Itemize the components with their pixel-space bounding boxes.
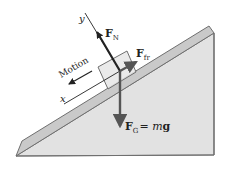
gravity-force-label: FG= mg [125,120,171,135]
gravity-g: g [163,120,171,133]
gravity-equals: = [139,120,152,133]
normal-force-subscript: N [113,34,119,42]
gravity-force-subscript: G [133,127,139,135]
incline-diagram: y x Motion FN Ffr FG= mg [0,0,226,169]
gravity-mass: m [152,120,162,133]
x-axis-label: x [60,93,66,104]
motion-label: Motion [57,55,90,80]
gravity-force-symbol: F [125,120,133,133]
friction-force-symbol: F [136,47,144,60]
normal-force-label: FN [105,27,119,42]
diagram-canvas: y x Motion FN Ffr FG= mg [0,0,226,169]
y-axis-label: y [78,13,85,24]
friction-force-subscript: fr [144,54,151,62]
inclined-plane [16,26,214,156]
normal-force-symbol: F [105,27,113,40]
friction-force-label: Ffr [136,47,150,62]
